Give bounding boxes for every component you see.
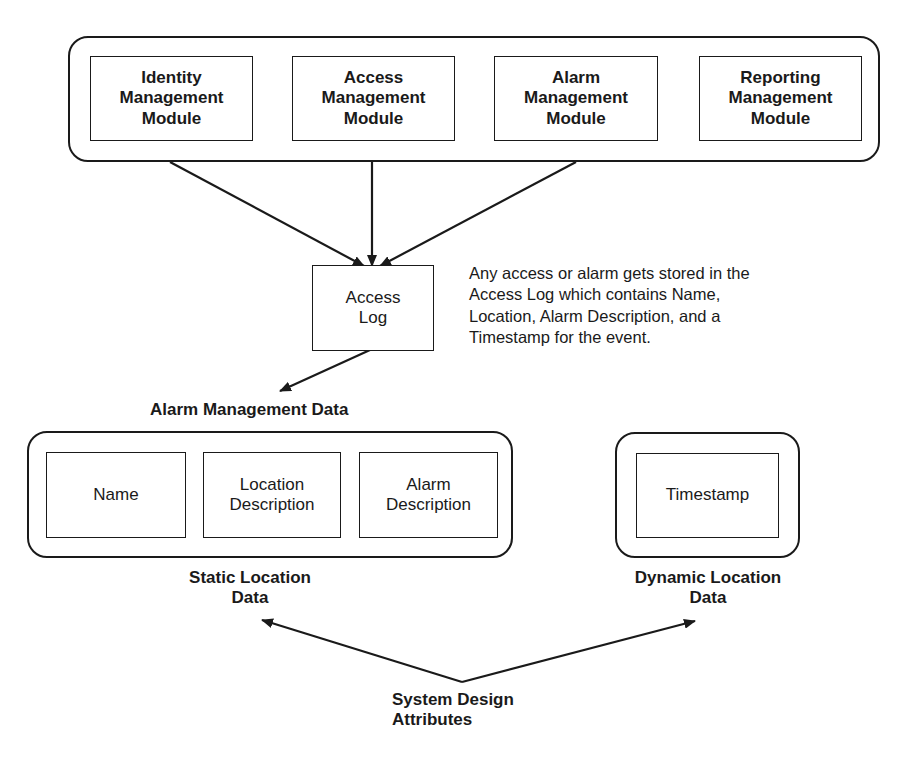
dynamic-location-caption: Dynamic Location Data [608,568,808,609]
arrow-identity-to-log [170,162,364,266]
access-management-module: Access Management Module [292,56,455,141]
arrow-alarm-to-log [380,162,576,266]
field-alarm-description: Alarm Description [359,452,498,538]
identity-management-module: Identity Management Module [90,56,253,141]
field-location-description: Location Description [203,452,341,538]
static-location-caption: Static Location Data [160,568,340,609]
module-label: Access Management Module [322,68,426,128]
system-design-attributes-label: System Design Attributes [392,690,552,731]
field-timestamp: Timestamp [636,453,779,538]
access-log-label: Access Log [346,288,401,328]
field-label: Timestamp [666,485,749,505]
field-label: Name [93,485,138,505]
module-label: Reporting Management Module [729,68,833,128]
module-label: Identity Management Module [120,68,224,128]
field-name: Name [46,452,186,538]
alarm-management-data-title: Alarm Management Data [150,400,390,420]
alarm-management-module: Alarm Management Module [494,56,658,141]
field-label: Alarm Description [386,475,471,515]
field-label: Location Description [229,475,314,515]
reporting-management-module: Reporting Management Module [699,56,862,141]
access-log-box: Access Log [312,265,434,351]
arrow-attributes-to-dynamic [462,621,695,682]
arrow-attributes-to-static [262,620,462,682]
arrow-log-to-alarm-data [280,350,370,391]
access-log-note: Any access or alarm gets stored in the A… [469,263,829,349]
module-label: Alarm Management Module [524,68,628,128]
